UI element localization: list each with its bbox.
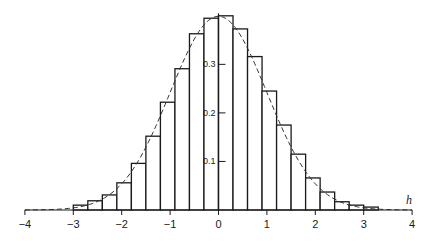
- histogram-bar: [175, 69, 190, 210]
- x-axis-ticks: −4−3−2−101234: [19, 210, 416, 230]
- y-tick-label: 0.2: [203, 108, 216, 118]
- histogram-bar: [306, 178, 321, 210]
- histogram-bar: [262, 91, 277, 210]
- histogram-bars: [73, 16, 378, 210]
- chart-canvas: −4−3−2−101234 0.10.20.3 h: [0, 0, 429, 243]
- x-axis-title: h: [406, 193, 412, 207]
- histogram-bar: [189, 34, 204, 210]
- x-tick-label: −2: [115, 218, 128, 230]
- x-tick-label: 3: [361, 218, 367, 230]
- histogram-bar: [248, 57, 263, 210]
- histogram-chart: −4−3−2−101234 0.10.20.3 h: [0, 0, 429, 243]
- histogram-bar: [102, 195, 117, 210]
- histogram-bar: [146, 136, 161, 210]
- x-tick-label: 4: [409, 218, 415, 230]
- histogram-bar: [291, 154, 306, 210]
- histogram-bar: [160, 102, 175, 210]
- x-tick-label: −4: [19, 218, 32, 230]
- histogram-bar: [277, 125, 292, 210]
- x-tick-label: 2: [312, 218, 318, 230]
- histogram-bar: [233, 29, 248, 210]
- x-tick-label: −1: [164, 218, 177, 230]
- y-tick-label: 0.3: [203, 59, 216, 69]
- x-tick-label: −3: [67, 218, 80, 230]
- x-tick-label: 1: [264, 218, 270, 230]
- histogram-bar: [88, 201, 103, 210]
- x-tick-label: 0: [215, 218, 221, 230]
- histogram-bar: [131, 163, 146, 210]
- y-tick-label: 0.1: [203, 156, 216, 166]
